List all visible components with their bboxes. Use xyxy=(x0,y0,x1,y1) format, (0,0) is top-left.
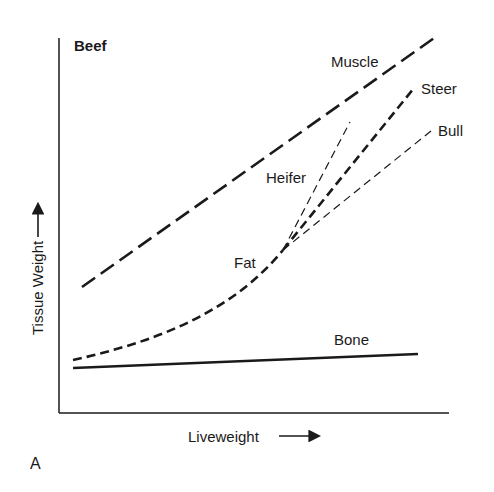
fat-label: Fat xyxy=(234,254,257,271)
x-axis-label: Liveweight xyxy=(188,428,260,445)
muscle-line xyxy=(82,36,437,287)
bone-label: Bone xyxy=(334,331,369,348)
panel-label: A xyxy=(30,455,41,472)
chart-title: Beef xyxy=(74,37,108,54)
muscle-label: Muscle xyxy=(331,53,379,70)
bull-label: Bull xyxy=(438,122,463,139)
heifer-line xyxy=(283,122,350,250)
bone-line xyxy=(73,354,418,368)
bull-line xyxy=(283,131,431,250)
heifer-label: Heifer xyxy=(266,169,306,186)
steer-label: Steer xyxy=(421,80,457,97)
tissue-growth-diagram: Beef Muscle Fat Steer Heifer Bull Bone T… xyxy=(0,0,494,492)
y-axis-label: Tissue Weight xyxy=(29,240,46,335)
